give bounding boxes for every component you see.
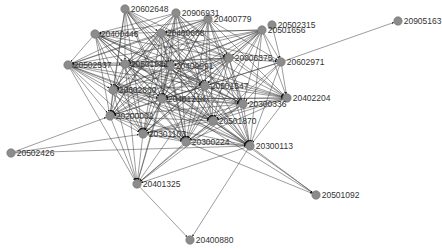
edge-20501870-20501092 [216, 124, 312, 193]
node-20400668[interactable] [157, 29, 165, 37]
edge-layer [15, 11, 394, 237]
node-label-20401214: 20401214 [168, 94, 206, 104]
node-20502426[interactable] [7, 149, 15, 157]
node-20501870[interactable] [209, 117, 217, 125]
node-label-20400668: 20400668 [167, 28, 205, 38]
node-label-20400880: 20400880 [196, 235, 234, 245]
node-20006375[interactable] [225, 54, 233, 62]
edge-20502426-20200002 [15, 118, 106, 152]
node-20501092[interactable] [312, 191, 320, 199]
node-20501981[interactable] [121, 60, 129, 68]
node-label-20300224: 20300224 [192, 137, 230, 147]
node-20906931[interactable] [172, 9, 180, 17]
node-20602648[interactable] [121, 5, 129, 13]
node-20200002[interactable] [106, 112, 114, 120]
node-label-20905163: 20905163 [404, 16, 442, 26]
node-label-20602648: 20602648 [131, 4, 169, 14]
node-label-20502426: 20502426 [17, 148, 55, 158]
node-label-20501547: 20501547 [211, 81, 249, 91]
network-graph: 2060264820906931204007792050231520501656… [0, 0, 442, 249]
node-20905163[interactable] [394, 17, 402, 25]
node-label-20400446: 20400446 [101, 29, 139, 39]
node-20401214[interactable] [158, 95, 166, 103]
node-label-20602860: 20602860 [119, 85, 157, 95]
node-20400446[interactable] [91, 30, 99, 38]
node-label-20301103: 20301103 [149, 129, 186, 139]
node-label-20501870: 20501870 [219, 116, 257, 126]
node-20300224[interactable] [182, 138, 190, 146]
edge-20300224-20501092 [190, 144, 312, 194]
node-label-20400991: 20400991 [176, 61, 214, 71]
edge-20502537-20200002 [71, 68, 108, 113]
node-20501656[interactable] [258, 26, 266, 34]
node-20502537[interactable] [64, 61, 72, 69]
node-label-20602971: 20602971 [287, 57, 325, 67]
node-label-20401325: 20401325 [143, 179, 181, 189]
node-20602860[interactable] [109, 86, 117, 94]
node-label-20300113: 20300113 [256, 141, 293, 151]
node-20300336[interactable] [239, 100, 247, 108]
node-label-20502537: 20502537 [74, 60, 112, 70]
node-20401325[interactable] [133, 180, 141, 188]
node-label-20402204: 20402204 [293, 93, 331, 103]
edge-20401325-20400880 [140, 187, 187, 237]
node-label-20006375: 20006375 [235, 53, 273, 63]
edge-20300113-20401325 [141, 147, 246, 182]
node-label-20400779: 20400779 [214, 14, 252, 24]
node-layer [7, 5, 402, 244]
node-20301103[interactable] [139, 130, 147, 138]
node-20501547[interactable] [201, 82, 209, 90]
node-label-20501656: 20501656 [268, 25, 306, 35]
node-label-20300336: 20300336 [249, 99, 287, 109]
node-label-20501981: 20501981 [131, 59, 169, 69]
node-20400880[interactable] [186, 236, 194, 244]
node-20602971[interactable] [277, 58, 285, 66]
node-20300113[interactable] [246, 142, 254, 150]
node-label-20501092: 20501092 [322, 190, 360, 200]
node-label-20200002: 20200002 [116, 111, 154, 121]
